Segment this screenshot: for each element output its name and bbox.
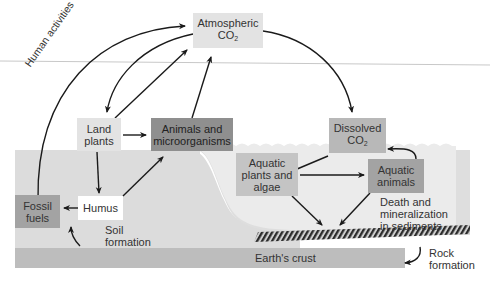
aquatic-animals-line1: Aquatic xyxy=(378,164,415,176)
node-aquatic-animals: Aquatic animals xyxy=(368,159,424,193)
land-plants-line2: plants xyxy=(84,135,113,147)
land-plants-line1: Land xyxy=(87,123,111,135)
death-line3: in sediments xyxy=(380,220,448,232)
rock-line2: formation xyxy=(429,259,475,271)
dissolved-co2-formula: CO2 xyxy=(347,134,367,150)
atmospheric-co2-formula: CO2 xyxy=(218,29,238,45)
fossil-line1: Fossil xyxy=(23,200,52,212)
animals-line2: microorganisms xyxy=(153,135,231,147)
aquatic-animals-line2: animals xyxy=(377,176,415,188)
co2-subscript: 2 xyxy=(234,35,238,42)
node-land-plants: Land plants xyxy=(77,118,121,151)
arrow-animals-to-atmos xyxy=(192,57,211,118)
node-atmospheric-co2: Atmospheric CO2 xyxy=(193,13,263,48)
earths-crust-label: Earth's crust xyxy=(255,252,316,264)
arrow-land-plants-to-atmos xyxy=(115,50,187,118)
node-animals-microorganisms: Animals and microorganisms xyxy=(151,118,233,151)
aquatic-plants-line2: plants and xyxy=(242,169,293,181)
soil-formation-line1: Soil xyxy=(105,224,151,236)
node-dissolved-co2: Dissolved CO2 xyxy=(329,118,386,153)
soil-formation-line2: formation xyxy=(105,236,151,248)
soil-formation-label: Soil formation xyxy=(105,224,151,248)
co2-text: CO xyxy=(218,29,235,41)
carbon-cycle-diagram: Atmospheric CO2 Land plants Animals and … xyxy=(0,0,490,287)
co2-text: CO xyxy=(347,134,364,146)
node-fossil-fuels: Fossil fuels xyxy=(15,195,60,228)
dissolved-line1: Dissolved xyxy=(334,122,382,134)
animals-line1: Animals and xyxy=(162,123,223,135)
atmospheric-label: Atmospheric xyxy=(197,17,258,29)
node-humus: Humus xyxy=(78,196,123,220)
horizon-line xyxy=(0,61,490,65)
arrow-atmos-to-land-plants xyxy=(107,34,193,112)
death-line2: mineralization xyxy=(380,208,448,220)
death-mineralization-label: Death and mineralization in sediments xyxy=(380,196,448,232)
arrow-rock-formation xyxy=(405,247,420,263)
node-aquatic-plants: Aquatic plants and algae xyxy=(236,153,298,196)
humus-text: Humus xyxy=(83,202,118,214)
rock-formation-label: Rock formation xyxy=(429,247,475,271)
rock-line1: Rock xyxy=(429,247,475,259)
aquatic-plants-line1: Aquatic xyxy=(249,157,286,169)
earths-crust-layer xyxy=(15,248,405,268)
water-surface xyxy=(200,144,456,151)
aquatic-plants-line3: algae xyxy=(254,181,281,193)
fossil-line2: fuels xyxy=(26,212,49,224)
co2-subscript: 2 xyxy=(364,140,368,147)
death-line1: Death and xyxy=(380,196,448,208)
arrow-atmos-to-dissolved xyxy=(263,31,352,112)
